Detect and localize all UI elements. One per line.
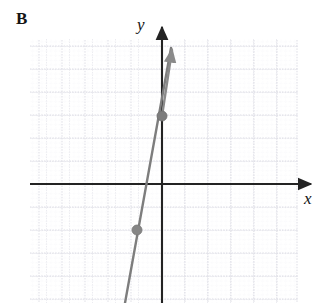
x-axis-label: x xyxy=(304,190,312,207)
graph-figure: B xyxy=(0,0,327,303)
coordinate-plane xyxy=(0,0,327,303)
point-y-intercept xyxy=(157,111,167,121)
y-axis-label: y xyxy=(137,16,145,33)
grid-lines xyxy=(30,39,298,303)
point-second xyxy=(132,225,142,235)
